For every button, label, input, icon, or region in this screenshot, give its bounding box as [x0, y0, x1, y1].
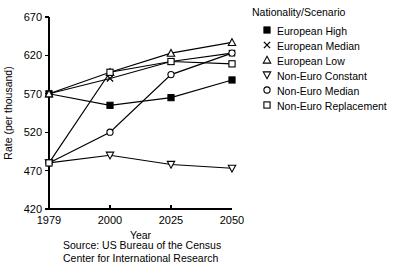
marker-open-square: [107, 69, 113, 75]
x-tick-label: 1979: [37, 214, 61, 226]
x-tick-label: 2000: [98, 214, 122, 226]
chart-legend: Nationality/Scenario European HighEurope…: [252, 6, 396, 113]
chart-figure: 4204705205706206701979200020252050YearRa…: [0, 0, 396, 271]
series-group-item: [46, 50, 235, 97]
legend-item-label: European Median: [277, 40, 360, 52]
series-line: [49, 62, 232, 163]
y-tick-label: 520: [24, 126, 42, 138]
legend-item: European High: [260, 23, 396, 38]
marker-open-square: [46, 160, 52, 166]
chart-axes: [45, 17, 232, 209]
legend-title: Nationality/Scenario: [252, 6, 396, 18]
series-group-item: [45, 152, 235, 172]
marker-open-circle: [107, 129, 113, 135]
legend-item-label: Non-Euro Constant: [277, 70, 367, 82]
legend-open-square-icon: [260, 97, 274, 115]
x-tick-label: 2050: [220, 214, 244, 226]
legend-item-label: European Low: [277, 55, 345, 67]
series-line: [49, 42, 232, 93]
y-tick-label: 470: [24, 165, 42, 177]
legend-item: Non-Euro Replacement: [260, 98, 396, 113]
marker-open-circle: [229, 50, 235, 56]
source-line-2: Center for International Research: [63, 252, 221, 265]
legend-item-label: European High: [277, 25, 347, 37]
y-tick-label: 620: [24, 49, 42, 61]
y-tick-label: 670: [24, 11, 42, 23]
marker-open-square: [229, 61, 235, 67]
legend-item: Non-Euro Constant: [260, 68, 396, 83]
marker-filled-square: [229, 77, 235, 83]
series-group-item: [45, 39, 235, 97]
marker-filled-square: [168, 95, 174, 101]
legend-item-label: Non-Euro Median: [277, 85, 359, 97]
series-line: [49, 155, 232, 168]
axis-lines: [49, 17, 232, 209]
chart-series: [45, 39, 235, 172]
marker-open-triangle-up: [228, 39, 235, 46]
legend-item: European Median: [260, 38, 396, 53]
marker-open-square: [168, 58, 174, 64]
source-line-1: Source: US Bureau of the Census: [63, 239, 221, 252]
y-axis-title: Rate (per thousand): [2, 66, 14, 159]
x-tick-label: 2025: [159, 214, 183, 226]
legend-item-label: Non-Euro Replacement: [277, 100, 387, 112]
legend-items: European HighEuropean MedianEuropean Low…: [252, 23, 396, 113]
source-note: Source: US Bureau of the Census Center f…: [63, 239, 221, 265]
legend-item: European Low: [260, 53, 396, 68]
chart-axis-labels: 4204705205706206701979200020252050YearRa…: [2, 11, 244, 241]
y-tick-label: 570: [24, 88, 42, 100]
legend-item: Non-Euro Median: [260, 83, 396, 98]
marker-filled-square: [107, 102, 113, 108]
marker-open-circle: [168, 72, 174, 78]
